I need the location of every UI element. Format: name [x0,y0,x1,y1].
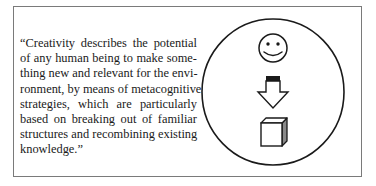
quote-line: strategies, which are particularly [20,97,197,112]
smiley-face-icon [259,34,287,62]
quote-line: ronment, by means of metacognitive [20,82,197,97]
creativity-definition-quote: “Creativity describes the potential of a… [20,36,197,158]
quote-line: knowledge.” [20,142,197,157]
quote-line: of any human being to make some- [20,51,197,66]
down-arrow-icon [258,76,288,108]
quote-line: structures and recombining existing [20,127,197,142]
cube-icon [261,118,287,146]
creativity-diagram [200,17,348,167]
quote-line: thing new and relevant for the envi- [20,66,197,81]
quote-line: based on breaking out of familiar [20,112,197,127]
quote-line: “Creativity describes the potential [20,36,197,51]
